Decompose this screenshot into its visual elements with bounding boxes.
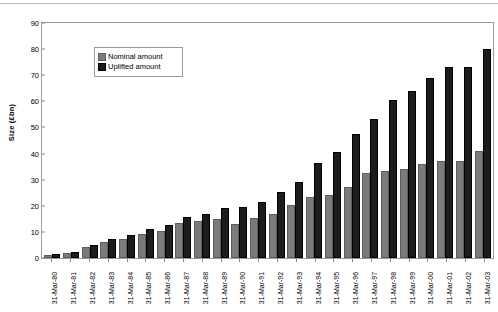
x-axis-tick-mark xyxy=(108,259,109,262)
x-axis-tick: 31-Mar-97 xyxy=(362,259,381,311)
x-axis-tick-label: 31-Mar-97 xyxy=(371,272,378,304)
x-axis-tick-mark xyxy=(352,259,353,262)
x-axis-tick-mark xyxy=(145,259,146,262)
legend-item-nominal: Nominal amount xyxy=(98,52,178,61)
x-axis-tick-label: 31-Mar-88 xyxy=(202,272,209,304)
x-axis-tick-mark xyxy=(258,259,259,262)
x-axis-tick: 31-Mar-96 xyxy=(343,259,362,311)
bar-nominal xyxy=(119,239,127,258)
bar-nominal xyxy=(475,151,483,258)
bar-uplifted xyxy=(108,239,116,258)
bar-group xyxy=(454,23,473,258)
x-axis-tick-mark xyxy=(296,259,297,262)
x-axis-tick: 31-Mar-90 xyxy=(230,259,249,311)
x-axis-tick: 31-Mar-99 xyxy=(399,259,418,311)
bar-nominal xyxy=(63,253,71,258)
bar-group xyxy=(436,23,455,258)
bar-uplifted xyxy=(314,163,322,258)
bar-nominal xyxy=(175,223,183,258)
x-axis-tick-mark xyxy=(202,259,203,262)
y-axis-title: Size (£bn) xyxy=(7,88,16,158)
x-axis-tick-label: 31-Mar-84 xyxy=(127,272,134,304)
plot-area: 0102030405060708090 Nominal amount Uplif… xyxy=(41,22,494,259)
x-axis-tick-label: 31-Mar-93 xyxy=(296,272,303,304)
bar-group xyxy=(267,23,286,258)
bar-nominal xyxy=(306,197,314,258)
bar-group xyxy=(305,23,324,258)
bar-nominal xyxy=(418,164,426,258)
bar-group xyxy=(380,23,399,258)
bar-nominal xyxy=(400,169,408,258)
chart-legend: Nominal amount Uplifted amount xyxy=(94,47,183,77)
y-axis-tick-label: 80 xyxy=(31,45,39,54)
y-axis-tick-label: 30 xyxy=(31,175,39,184)
bar-uplifted xyxy=(389,100,397,258)
x-axis-tick: 31-Mar-86 xyxy=(155,259,174,311)
bar-nominal xyxy=(44,255,52,258)
x-axis-tick-mark xyxy=(221,259,222,262)
x-axis-ticks: 31-Mar-8031-Mar-8131-Mar-8231-Mar-8331-M… xyxy=(41,259,494,311)
bar-uplifted xyxy=(146,229,154,258)
x-axis-tick: 31-Mar-00 xyxy=(418,259,437,311)
bar-nominal xyxy=(344,187,352,258)
bar-uplifted xyxy=(127,235,135,258)
x-axis-tick-mark xyxy=(51,259,52,262)
x-axis-tick-label: 31-Mar-86 xyxy=(164,272,171,304)
bar-group xyxy=(230,23,249,258)
x-axis-tick-mark xyxy=(409,259,410,262)
y-axis-tick-label: 70 xyxy=(31,71,39,80)
x-axis-tick: 31-Mar-94 xyxy=(305,259,324,311)
bar-group xyxy=(193,23,212,258)
bar-nominal xyxy=(100,242,108,258)
x-axis-tick-mark xyxy=(484,259,485,262)
bar-uplifted xyxy=(483,49,491,258)
x-axis-tick: 31-Mar-84 xyxy=(117,259,136,311)
x-axis-tick-mark xyxy=(390,259,391,262)
bar-nominal xyxy=(231,224,239,258)
bar-nominal xyxy=(138,234,146,258)
x-axis-tick-label: 31-Mar-92 xyxy=(277,272,284,304)
x-axis-tick-mark xyxy=(239,259,240,262)
bar-nominal xyxy=(213,219,221,258)
x-axis-tick-mark xyxy=(465,259,466,262)
bar-group xyxy=(62,23,81,258)
legend-swatch-nominal-icon xyxy=(98,53,106,61)
x-axis-tick: 31-Mar-01 xyxy=(437,259,456,311)
bar-nominal xyxy=(157,231,165,258)
bar-group xyxy=(342,23,361,258)
bar-nominal xyxy=(269,214,277,258)
y-axis-tick-label: 0 xyxy=(35,254,39,263)
bar-uplifted xyxy=(352,134,360,258)
x-axis-tick: 31-Mar-03 xyxy=(474,259,493,311)
legend-label-nominal: Nominal amount xyxy=(108,52,163,61)
x-axis-tick-label: 31-Mar-98 xyxy=(390,272,397,304)
bar-nominal xyxy=(381,171,389,258)
x-axis-tick: 31-Mar-92 xyxy=(268,259,287,311)
bar-uplifted xyxy=(71,252,79,258)
bar-nominal xyxy=(325,195,333,258)
bar-uplifted xyxy=(239,207,247,258)
bar-uplifted xyxy=(408,91,416,258)
bar-uplifted xyxy=(90,245,98,258)
x-axis-tick: 31-Mar-80 xyxy=(42,259,61,311)
bar-uplifted xyxy=(370,119,378,258)
x-axis-tick-label: 31-Mar-94 xyxy=(315,272,322,304)
x-axis-tick: 31-Mar-81 xyxy=(61,259,80,311)
y-axis-tick-label: 60 xyxy=(31,97,39,106)
bar-uplifted xyxy=(202,214,210,258)
y-axis-tick-label: 40 xyxy=(31,149,39,158)
bar-uplifted xyxy=(445,67,453,258)
x-axis-tick-mark xyxy=(164,259,165,262)
x-axis-tick-label: 31-Mar-81 xyxy=(70,272,77,304)
x-axis-tick-label: 31-Mar-01 xyxy=(446,272,453,304)
x-axis-tick-label: 31-Mar-99 xyxy=(409,272,416,304)
x-axis-tick: 31-Mar-91 xyxy=(249,259,268,311)
x-axis-tick-mark xyxy=(277,259,278,262)
x-axis-tick-label: 31-Mar-03 xyxy=(484,272,491,304)
bar-uplifted xyxy=(165,225,173,258)
x-axis-tick: 31-Mar-93 xyxy=(286,259,305,311)
bar-uplifted xyxy=(221,208,229,258)
x-axis-tick-mark xyxy=(70,259,71,262)
x-axis-tick-label: 31-Mar-96 xyxy=(352,272,359,304)
bar-group xyxy=(43,23,62,258)
